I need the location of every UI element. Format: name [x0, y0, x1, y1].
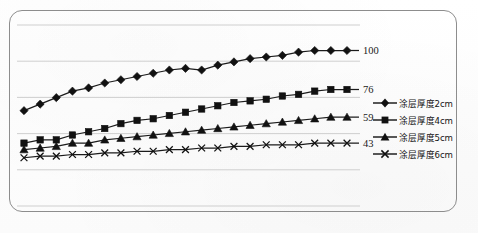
legend-label-2: 涂层厚度5cm: [399, 131, 453, 143]
data-point-square: [295, 91, 301, 97]
data-point-diamond: [36, 100, 44, 108]
legend-item-2[interactable]: 涂层厚度5cm: [372, 128, 476, 145]
data-point-diamond: [68, 87, 76, 95]
data-point-square: [166, 112, 172, 118]
data-point-diamond: [311, 46, 319, 54]
legend-item-3[interactable]: 涂层厚度6cm: [372, 145, 476, 162]
data-point-square: [150, 116, 156, 122]
data-point-diamond: [85, 84, 93, 92]
legend-item-1[interactable]: 涂层厚度4cm: [372, 111, 476, 128]
data-point-diamond: [20, 107, 28, 115]
data-point-diamond: [165, 66, 173, 74]
legend-label-0: 涂层厚度2cm: [399, 97, 453, 109]
legend-marker-diamond-icon: [372, 96, 398, 110]
series-group: [20, 46, 359, 161]
data-point-square: [279, 93, 285, 99]
data-point-diamond: [262, 53, 270, 61]
data-point-diamond: [230, 58, 238, 66]
data-point-square: [118, 120, 124, 126]
data-point-diamond: [133, 72, 141, 80]
series-0: [20, 46, 351, 114]
data-point-diamond: [278, 51, 286, 59]
data-point-square: [215, 103, 221, 109]
legend-item-0[interactable]: 涂层厚度2cm: [372, 94, 476, 111]
series-1: [21, 86, 350, 146]
data-point-square: [263, 96, 269, 102]
data-point-diamond: [117, 76, 125, 84]
legend-label-1: 涂层厚度4cm: [399, 114, 453, 126]
data-point-diamond: [101, 79, 109, 87]
data-point-diamond: [327, 46, 335, 54]
chart-legend: 涂层厚度2cm 涂层厚度4cm 涂层厚度5cm 涂层厚度6cm: [372, 94, 476, 162]
data-point-square: [312, 88, 318, 94]
legend-label-3: 涂层厚度6cm: [399, 148, 453, 160]
data-point-square: [247, 98, 253, 104]
data-point-diamond: [149, 69, 157, 77]
data-point-diamond: [214, 61, 222, 69]
data-point-square: [69, 132, 75, 138]
data-point-square: [134, 117, 140, 123]
legend-marker-x-icon: [372, 147, 398, 161]
data-point-diamond: [52, 94, 60, 102]
series-line: [24, 51, 347, 111]
data-point-square: [85, 129, 91, 135]
data-point-square: [198, 106, 204, 112]
data-point-square: [231, 99, 237, 105]
legend-marker-square-icon: [372, 113, 398, 127]
data-point-diamond: [294, 48, 302, 56]
data-point-diamond: [181, 64, 189, 72]
data-point-diamond: [198, 66, 206, 74]
legend-marker-triangle-icon: [372, 130, 398, 144]
value-label-0: 100: [363, 45, 379, 56]
data-point-square: [37, 137, 43, 143]
data-point-square: [328, 86, 334, 92]
data-point-square: [102, 125, 108, 131]
data-point-square: [182, 109, 188, 115]
